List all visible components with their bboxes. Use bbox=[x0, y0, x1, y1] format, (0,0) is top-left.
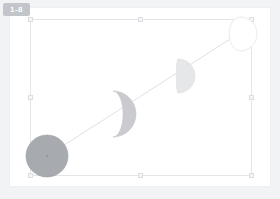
resize-handle-top-right[interactable] bbox=[249, 17, 254, 22]
resize-handle-middle-right[interactable] bbox=[249, 95, 254, 100]
rotation-anchor-dot[interactable] bbox=[46, 155, 48, 157]
slide-number-badge: 1-8 bbox=[3, 3, 30, 16]
selection-frame[interactable] bbox=[30, 19, 252, 176]
resize-handle-bottom-left[interactable] bbox=[28, 173, 33, 178]
resize-handle-bottom-center[interactable] bbox=[138, 173, 143, 178]
resize-handle-top-left[interactable] bbox=[28, 17, 33, 22]
resize-handle-bottom-right[interactable] bbox=[249, 173, 254, 178]
resize-handle-middle-left[interactable] bbox=[28, 95, 33, 100]
resize-handle-top-center[interactable] bbox=[138, 17, 143, 22]
editor-canvas: 1-8 bbox=[0, 0, 280, 199]
